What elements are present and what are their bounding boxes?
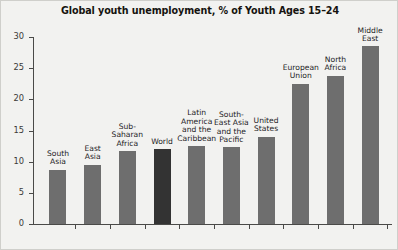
y-axis-tick: 5 [29, 193, 33, 194]
bar-east-asia[interactable] [84, 165, 101, 224]
y-axis-tick-label: 30 [13, 31, 24, 41]
bar-label: North Africa [313, 56, 358, 73]
y-axis-tick: 25 [29, 68, 33, 69]
plot-area: 051015202530 South AsiaEast AsiaSub- Sah… [33, 37, 393, 226]
y-axis-tick: 20 [29, 99, 33, 100]
x-axis-tick [249, 225, 250, 229]
chart-title: Global youth unemployment, % of Youth Ag… [1, 5, 398, 16]
x-axis-tick [214, 225, 215, 229]
y-axis-tick: 10 [29, 162, 33, 163]
x-axis-tick [179, 225, 180, 229]
chart-container: Global youth unemployment, % of Youth Ag… [0, 0, 398, 250]
x-axis-tick [110, 225, 111, 229]
bar-label: United States [244, 117, 289, 134]
x-axis-tick [75, 225, 76, 229]
bar-middle-east[interactable] [362, 46, 379, 224]
bar-south-east-asia-and-the-pacific[interactable] [223, 147, 240, 224]
bar-latin-america-and-the-caribbean[interactable] [188, 146, 205, 224]
y-axis-line [33, 37, 34, 224]
y-axis-tick-label: 0 [19, 218, 24, 228]
y-axis-tick-label: 5 [19, 187, 24, 197]
y-axis-tick: 15 [29, 131, 33, 132]
x-axis-tick [387, 225, 388, 229]
y-axis-tick-label: 15 [13, 125, 24, 135]
x-axis-tick [353, 225, 354, 229]
bar-north-africa[interactable] [327, 76, 344, 224]
bar-united-states[interactable] [258, 137, 275, 224]
y-axis-tick: 0 [29, 224, 33, 225]
x-axis-tick [283, 225, 284, 229]
x-axis-line [33, 224, 392, 225]
bar-label: Middle East [348, 27, 393, 44]
bar-sub-saharan-africa[interactable] [119, 151, 136, 224]
y-axis-tick-label: 25 [13, 62, 24, 72]
x-axis-tick [318, 225, 319, 229]
y-axis-tick-label: 20 [13, 93, 24, 103]
bar-european-union[interactable] [292, 84, 309, 224]
y-axis-tick-label: 10 [13, 156, 24, 166]
y-axis-tick: 30 [29, 37, 33, 38]
bar-world[interactable] [154, 149, 171, 224]
x-axis-tick [145, 225, 146, 229]
bar-south-asia[interactable] [49, 170, 66, 224]
